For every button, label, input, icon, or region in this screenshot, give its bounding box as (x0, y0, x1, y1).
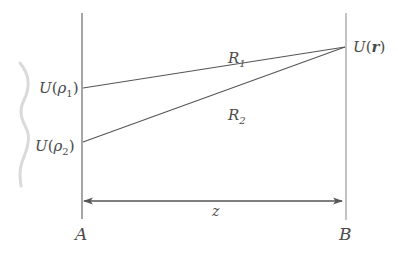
label-r1: R1 (227, 49, 246, 69)
label-u-rho2: U(ρ2) (35, 137, 75, 157)
ray-r2 (83, 47, 345, 142)
label-u-rho1: U(ρ1) (39, 79, 79, 99)
label-plane-b: B (338, 224, 352, 244)
diffraction-diagram: U(ρ1) U(ρ2) U(r) R1 R2 z A B (0, 0, 398, 256)
label-r2: R2 (227, 106, 246, 126)
label-z: z (211, 203, 220, 219)
ray-r1 (83, 47, 345, 88)
wavefront-curve (20, 63, 28, 186)
label-plane-a: A (73, 224, 87, 244)
label-u-r: U(r) (353, 38, 385, 56)
